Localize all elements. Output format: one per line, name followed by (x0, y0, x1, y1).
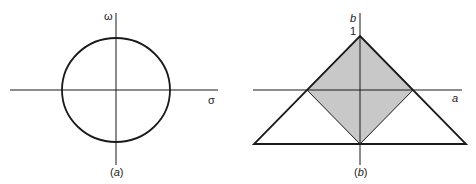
b-tick-1: 1 (350, 25, 356, 37)
a-axis-label: a (452, 92, 458, 104)
panel-a: ω σ (a) (10, 10, 218, 178)
caption-b: (b) (354, 166, 367, 178)
panel-b: b 1 a (b) (253, 12, 466, 178)
b-axis-label: b (350, 12, 356, 24)
caption-a: (a) (110, 166, 123, 178)
omega-label: ω (104, 10, 113, 22)
sigma-label: σ (208, 94, 215, 106)
figure: ω σ (a) b 1 a (b) (0, 0, 476, 184)
